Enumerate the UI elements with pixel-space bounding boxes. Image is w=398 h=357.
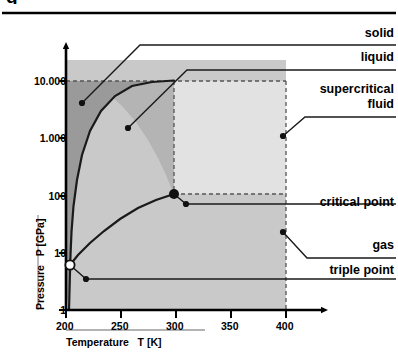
y-tick-label-10: 10: [54, 247, 66, 259]
x-axis-title: Temperature T [K]: [66, 336, 161, 348]
annotation-label-critical-point: critical point: [320, 195, 394, 210]
region-supercritical-fill: [174, 81, 286, 194]
leader-supercritical: [283, 117, 396, 136]
triple-point-marker: [65, 260, 74, 269]
plot-regions: [66, 60, 286, 310]
leader-dot-supercritical: [280, 133, 286, 139]
leader-dot-critical-point: [183, 201, 189, 207]
y-tick-label-1000: 1.000: [40, 132, 66, 144]
y-tick-label-10000: 10.000: [34, 75, 66, 87]
x-tick-label-200: 200: [56, 320, 74, 332]
x-tick-label-400: 400: [276, 320, 294, 332]
leader-dot-solid: [79, 100, 85, 106]
leader-dot-triple-point: [83, 276, 89, 282]
annotation-label-supercritical-fluid: supercritical fluid: [320, 82, 394, 112]
y-tick-label-1: 1: [60, 304, 66, 316]
critical-point-marker: [169, 189, 179, 199]
phase-diagram-figure: g: [0, 0, 398, 357]
leader-dot-liquid: [125, 125, 131, 131]
y-tick-label-100: 100: [48, 190, 66, 202]
annotation-label-gas: gas: [372, 238, 394, 253]
x-tick-label-250: 250: [111, 320, 129, 332]
leader-dot-gas: [280, 229, 286, 235]
annotation-label-solid: solid: [365, 26, 394, 41]
y-axis-title: Pressure P [GPa]: [34, 219, 46, 310]
x-tick-label-300: 300: [166, 320, 184, 332]
annotation-label-triple-point: triple point: [329, 263, 394, 278]
annotation-label-liquid: liquid: [361, 50, 394, 65]
x-tick-label-350: 350: [221, 320, 239, 332]
